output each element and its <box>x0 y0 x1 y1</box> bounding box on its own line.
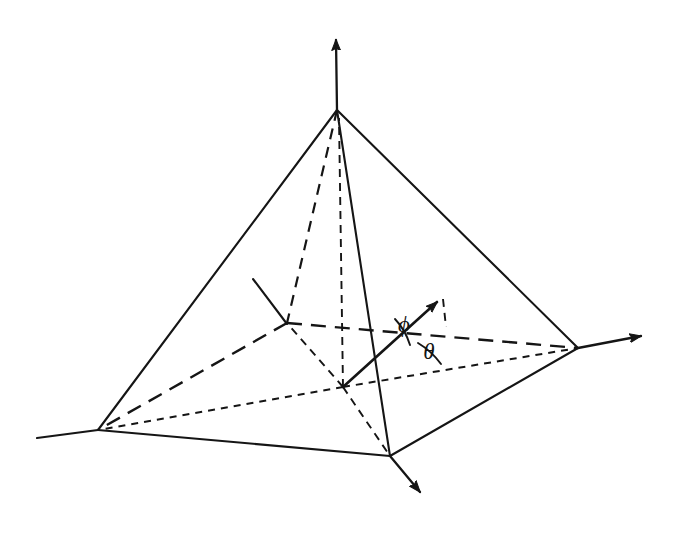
theta-angle-label: θ <box>423 339 434 364</box>
construction-vertical-axis-origin-to-apex <box>339 118 343 387</box>
z-axis-arrow-icon <box>336 40 337 110</box>
figure-canvas: ϕ θ <box>0 0 684 542</box>
edge-apex-to-left-vertex <box>98 110 337 430</box>
construction-origin-to-back-vertex <box>287 323 343 387</box>
edge-base-left-extension <box>37 430 98 438</box>
edge-apex-to-right-vertex <box>337 110 578 348</box>
pyramid-spherical-coordinates-diagram: ϕ θ <box>0 0 684 542</box>
x-axis-arrow-icon <box>578 336 641 348</box>
construction-vector-tip-to-ground-projection <box>443 299 446 327</box>
solid-edges-group <box>37 110 578 456</box>
edge-base-front-to-right-vertex <box>390 348 578 456</box>
phi-angle-label: ϕ <box>398 312 410 337</box>
y-axis-arrow-icon <box>390 456 420 492</box>
coordinate-axes-group <box>336 40 641 492</box>
construction-lines-group <box>98 118 578 456</box>
hidden-edge-back-to-left-vertex <box>98 323 287 430</box>
construction-origin-to-front-vertex <box>343 387 390 456</box>
edge-base-left-to-front-vertex <box>98 430 390 456</box>
surface-normal-stub-icon <box>253 279 287 324</box>
edge-apex-to-front-vertex <box>337 110 390 456</box>
